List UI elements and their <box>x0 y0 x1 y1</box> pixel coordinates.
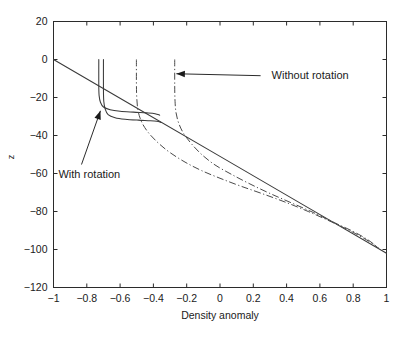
y-tick-label-7: −120 <box>24 281 48 293</box>
x-tick-label-2: −0.6 <box>110 292 131 304</box>
x-tick-label-5: 0 <box>217 292 223 304</box>
y-tick-label-6: −100 <box>24 243 48 255</box>
x-tick-label-3: −0.4 <box>143 292 164 304</box>
annotation-label-1: With rotation <box>58 168 120 180</box>
x-tick-label-8: 0.6 <box>313 292 328 304</box>
chart-figure: −1−0.8−0.6−0.4−0.200.20.40.60.81 200−20−… <box>0 0 406 340</box>
x-tick-label-9: 0.8 <box>346 292 361 304</box>
x-tick-label-1: −0.8 <box>76 292 97 304</box>
x-tick-label-0: −1 <box>48 292 60 304</box>
y-axis-label: z <box>6 154 16 159</box>
y-tick-label-3: −40 <box>30 129 48 141</box>
x-tick-label-6: 0.2 <box>246 292 261 304</box>
x-tick-label-7: 0.4 <box>279 292 294 304</box>
density-anomaly-plot: −1−0.8−0.6−0.4−0.200.20.40.60.81 200−20−… <box>0 0 406 340</box>
y-tick-label-2: −20 <box>30 91 48 103</box>
annotation-label-0: Without rotation <box>272 69 349 81</box>
x-tick-label-4: −0.2 <box>176 292 197 304</box>
x-axis-label: Density anomaly <box>181 309 259 321</box>
y-tick-label-4: −60 <box>30 167 48 179</box>
y-tick-label-0: 20 <box>36 15 48 27</box>
x-tick-label-10: 1 <box>384 292 390 304</box>
y-tick-label-5: −80 <box>30 205 48 217</box>
y-tick-label-1: 0 <box>42 53 48 65</box>
